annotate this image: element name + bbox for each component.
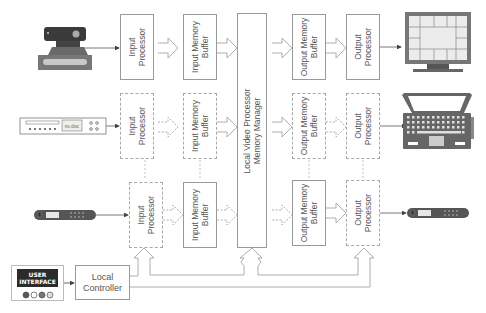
connectors-and-devices: no disc (0, 0, 486, 313)
camera-icon (38, 27, 92, 70)
arrow-proc-to-buffer-3 (163, 205, 183, 225)
arrow-proc-to-buffer-1 (158, 38, 178, 58)
dvd-display-text: no disc (65, 124, 80, 129)
remote-control-output-icon (407, 208, 469, 218)
monitor-icon (405, 12, 471, 72)
video-processing-diagram: InputProcessor InputProcessor InputProce… (0, 0, 486, 313)
control-bus-upper (130, 248, 374, 287)
laptop-icon (402, 93, 474, 149)
remote-control-input-icon (34, 210, 96, 220)
arrow-proc-to-buffer-2 (158, 117, 178, 137)
dvd-player-icon: no disc (20, 118, 106, 134)
